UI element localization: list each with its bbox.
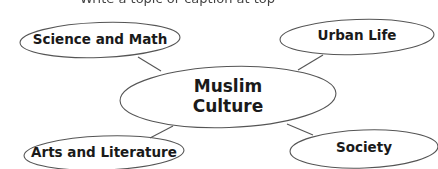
node-label-society: Society xyxy=(336,140,392,156)
connector-arts-and-literature xyxy=(150,126,173,138)
web-diagram: Write a topic or caption at top Science … xyxy=(0,0,438,169)
node-label-urban-life: Urban Life xyxy=(318,28,397,44)
node-label-science-and-math: Science and Math xyxy=(33,32,168,48)
connector-science-and-math xyxy=(138,57,161,71)
connector-society xyxy=(287,124,313,135)
center-label-muslim-culture: Muslim Culture xyxy=(193,77,264,116)
node-label-arts-and-literature: Arts and Literature xyxy=(31,145,177,161)
connector-urban-life xyxy=(298,55,323,70)
